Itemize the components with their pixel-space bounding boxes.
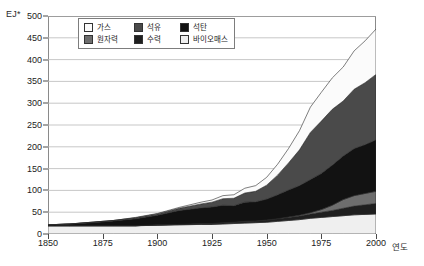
y-axis-tick-350: 350 — [2, 76, 42, 86]
x-tick-mark — [103, 234, 104, 239]
x-axis-tick-1975: 1975 — [311, 238, 331, 248]
legend-swatch-icon — [134, 23, 143, 32]
y-axis-tick-300: 300 — [2, 98, 42, 108]
x-tick-mark — [267, 234, 268, 239]
legend-label: 가스 — [97, 24, 111, 32]
x-tick-mark — [212, 234, 213, 239]
x-axis-tick-1950: 1950 — [257, 238, 277, 248]
x-axis-tick-1850: 1850 — [38, 238, 58, 248]
legend-item-바이오매스: 바이오매스 — [180, 35, 228, 44]
legend-swatch-icon — [180, 35, 189, 44]
x-tick-mark — [376, 234, 377, 239]
x-axis-title: 연도 — [392, 240, 408, 252]
x-tick-mark — [321, 234, 322, 239]
energy-consumption-area-chart: EJ* 연도 050100150200250300350400450500 18… — [0, 0, 424, 266]
legend-label: 석유 — [147, 24, 161, 32]
x-axis-tick-1900: 1900 — [147, 238, 167, 248]
chart-legend: 가스석유석탄원자력수력바이오매스 — [78, 18, 235, 49]
legend-label: 석탄 — [193, 24, 207, 32]
y-axis-tick-400: 400 — [2, 55, 42, 65]
legend-swatch-icon — [84, 35, 93, 44]
x-tick-mark — [48, 234, 49, 239]
legend-item-석탄: 석탄 — [180, 23, 207, 32]
legend-swatch-icon — [134, 35, 143, 44]
legend-row-1: 가스석유석탄 — [84, 23, 228, 32]
legend-swatch-icon — [84, 23, 93, 32]
y-axis-tick-150: 150 — [2, 164, 42, 174]
y-axis-tick-100: 100 — [2, 185, 42, 195]
legend-label: 원자력 — [97, 36, 118, 44]
y-axis-tick-500: 500 — [2, 11, 42, 21]
legend-item-가스: 가스 — [84, 23, 128, 32]
legend-item-수력: 수력 — [134, 35, 174, 44]
x-axis-tick-1875: 1875 — [93, 238, 113, 248]
y-axis-tick-250: 250 — [2, 120, 42, 130]
y-axis-tick-0: 0 — [2, 229, 42, 239]
y-axis-tick-200: 200 — [2, 142, 42, 152]
x-axis-tick-2000: 2000 — [366, 238, 386, 248]
x-tick-mark — [157, 234, 158, 239]
y-axis-tick-50: 50 — [2, 207, 42, 217]
legend-row-2: 원자력수력바이오매스 — [84, 35, 228, 44]
legend-item-원자력: 원자력 — [84, 35, 128, 44]
legend-swatch-icon — [180, 23, 189, 32]
legend-label: 수력 — [147, 36, 161, 44]
legend-item-석유: 석유 — [134, 23, 174, 32]
y-axis-tick-450: 450 — [2, 33, 42, 43]
x-axis-tick-1925: 1925 — [202, 238, 222, 248]
legend-label: 바이오매스 — [193, 36, 228, 44]
